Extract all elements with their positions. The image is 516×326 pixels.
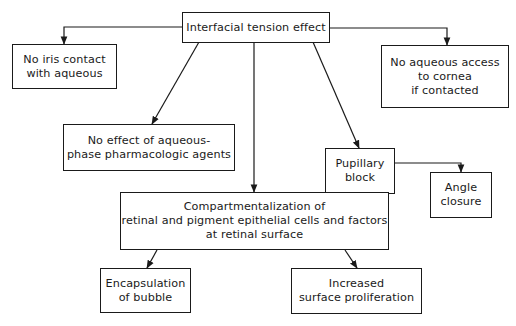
arrow-root-to-pharm (152, 42, 199, 124)
arrow-compart-to-prolif (345, 250, 357, 268)
arrow-root-to-pupil (313, 42, 359, 148)
arrow-compart-to-encap (147, 250, 157, 268)
node-compartmentalization: Compartmentalization of retinal and pigm… (120, 192, 389, 250)
node-angle-closure: Angle closure (430, 172, 492, 218)
node-increased-surface-proliferation: Increased surface proliferation (291, 268, 422, 314)
node-no-iris-contact: No iris contact with aqueous (12, 44, 117, 89)
node-interfacial-tension-effect: Interfacial tension effect (182, 12, 330, 43)
node-pupillary-block: Pupillary block (325, 148, 395, 194)
arrow-pupil-to-angle (395, 163, 461, 172)
arrow-root-to-iris (64, 27, 182, 44)
node-no-aqueous-access-cornea: No aqueous access to cornea if contacted (381, 45, 509, 108)
arrow-root-to-cornea (330, 28, 447, 45)
node-no-effect-pharmacologic: No effect of aqueous- phase pharmacologi… (63, 124, 235, 171)
flow-diagram: Interfacial tension effect No iris conta… (0, 0, 516, 326)
node-encapsulation-of-bubble: Encapsulation of bubble (100, 268, 191, 313)
